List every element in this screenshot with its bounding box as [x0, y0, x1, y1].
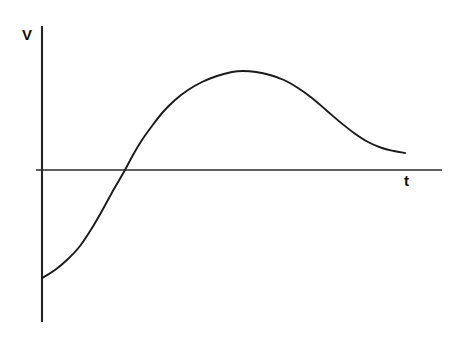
plot-area	[0, 0, 460, 339]
y-axis-label: V	[22, 27, 32, 42]
x-axis-label: t	[404, 173, 409, 188]
figure-canvas: V t	[0, 0, 460, 339]
voltage-curve	[42, 71, 405, 278]
